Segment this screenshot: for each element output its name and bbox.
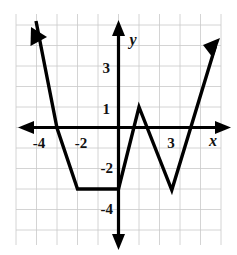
y-tick-label-neg2: -2 <box>101 160 114 176</box>
axis-tick-labels: -4 -2 3 3 1 -2 -4 <box>33 60 175 217</box>
y-tick-label-neg4: -4 <box>101 201 114 217</box>
piecewise-polyline <box>36 21 216 190</box>
y-axis-label: y <box>127 31 137 49</box>
graph-figure: -4 -2 3 3 1 -2 -4 x y <box>0 0 237 255</box>
y-axis-top-arrowhead <box>112 20 125 36</box>
x-axis-label: x <box>208 132 217 149</box>
x-tick-label-neg4: -4 <box>33 135 46 151</box>
x-axis <box>18 121 231 134</box>
y-tick-label-1: 1 <box>103 101 111 117</box>
x-tick-label-neg2: -2 <box>75 135 88 151</box>
x-axis-left-arrowhead <box>18 121 34 134</box>
function-curve <box>31 21 221 190</box>
y-axis-bottom-arrowhead <box>112 234 125 250</box>
coordinate-plane-svg: -4 -2 3 3 1 -2 -4 x y <box>0 0 237 255</box>
curve-right-arrowhead <box>203 38 220 58</box>
x-tick-label-3: 3 <box>167 135 175 151</box>
y-tick-label-3: 3 <box>103 60 111 76</box>
y-axis <box>112 20 125 250</box>
x-axis-right-arrowhead <box>215 121 231 134</box>
